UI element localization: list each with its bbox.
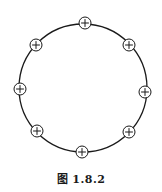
- ring-charge-diagram: [0, 0, 162, 192]
- positive-charge-icon-right: [139, 86, 151, 98]
- positive-charge-icon-top: [79, 17, 91, 29]
- positive-charge-icon-lower-left: [31, 125, 43, 137]
- positive-charge-icon-lower-right: [123, 126, 135, 138]
- positive-charge-icon-upper-left: [30, 39, 42, 51]
- positive-charges: [14, 17, 151, 158]
- figure-caption: 图 1.8.2: [0, 170, 162, 186]
- positive-charge-icon-left: [14, 83, 26, 95]
- positive-charge-icon-bottom: [76, 146, 88, 158]
- positive-charge-icon-upper-right: [123, 39, 135, 51]
